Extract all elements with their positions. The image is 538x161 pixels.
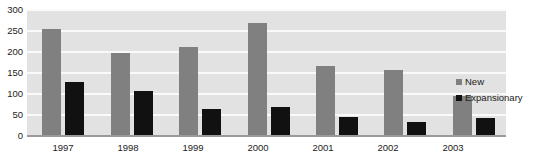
- bar-new-1999: [179, 47, 198, 135]
- bar-new-2000: [248, 23, 267, 135]
- x-axis-tick: 1997: [31, 143, 95, 153]
- bar-new-1998: [111, 53, 130, 135]
- legend-label: New: [465, 77, 484, 87]
- bar-group: [248, 9, 290, 137]
- bar-group: [179, 9, 221, 137]
- y-axis-tick: 100: [0, 89, 23, 98]
- chart-title-cropped: [36, 0, 456, 3]
- y-axis-tick: 250: [0, 26, 23, 35]
- y-axis-tick: 50: [0, 110, 23, 119]
- bar-expansionary-2000: [271, 107, 290, 135]
- y-axis-tick: 200: [0, 47, 23, 56]
- bar-group: [453, 9, 495, 137]
- x-axis-tick: 2001: [291, 143, 355, 153]
- bar-new-2001: [316, 66, 335, 135]
- legend-swatch-icon: [456, 79, 462, 85]
- bar-group: [384, 9, 426, 137]
- x-axis-tick: 1999: [161, 143, 225, 153]
- x-axis-tick: 1998: [96, 143, 160, 153]
- bar-group: [42, 9, 84, 137]
- x-axis-tick: 2000: [226, 143, 290, 153]
- plot-area: [27, 9, 506, 137]
- y-axis-tick: 300: [0, 5, 23, 14]
- bar-new-1997: [42, 29, 61, 135]
- bar-group: [316, 9, 358, 137]
- y-axis-tick: 150: [0, 68, 23, 77]
- legend: New Expansionary: [456, 74, 538, 106]
- legend-item-expansionary: Expansionary: [456, 90, 538, 106]
- legend-label: Expansionary: [465, 93, 523, 103]
- legend-item-new: New: [456, 74, 538, 90]
- bar-expansionary-1999: [202, 109, 221, 135]
- legend-swatch-icon: [456, 95, 462, 101]
- bar-expansionary-2002: [407, 122, 426, 135]
- bar-expansionary-2001: [339, 117, 358, 135]
- bar-series-container: [27, 9, 506, 137]
- bar-expansionary-2003: [476, 118, 495, 135]
- bar-chart: 300 250 200 150 100 50 0 1997 1998 1999 …: [0, 0, 538, 161]
- bar-new-2002: [384, 70, 403, 135]
- y-axis-tick: 0: [0, 131, 23, 140]
- x-axis-tick: 2003: [421, 143, 485, 153]
- bar-expansionary-1997: [65, 82, 84, 135]
- bar-expansionary-1998: [134, 91, 153, 135]
- bar-group: [111, 9, 153, 137]
- x-axis-tick: 2002: [356, 143, 420, 153]
- x-axis-line: [27, 135, 506, 137]
